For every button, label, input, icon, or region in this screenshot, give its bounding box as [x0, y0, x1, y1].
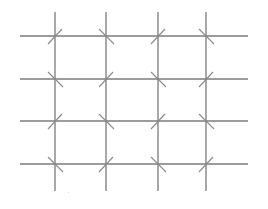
horizontal-lines: [20, 36, 248, 164]
stray-dot: [68, 192, 69, 193]
grid-diagram: [0, 0, 268, 209]
diagonal-ticks: [48, 29, 214, 172]
